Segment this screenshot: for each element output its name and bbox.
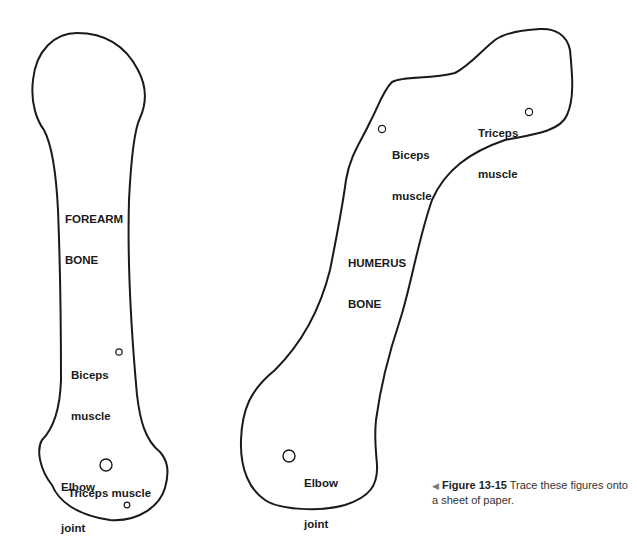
forearm-title-line1: FOREARM (65, 213, 123, 227)
humerus-triceps-line2: muscle (478, 168, 518, 182)
forearm-triceps-label: Triceps muscle (68, 487, 151, 501)
humerus-title-line1: HUMERUS (348, 257, 406, 271)
humerus-bone-outline (241, 29, 572, 509)
forearm-biceps-label: Biceps muscle (71, 342, 111, 437)
humerus-triceps-line1: Triceps (478, 127, 518, 141)
humerus-biceps-marker (378, 125, 385, 132)
figure-caption: ◀ Figure 13-15 Trace these figures onto … (432, 479, 632, 507)
forearm-triceps-marker (124, 502, 130, 508)
humerus-bone-title: HUMERUS BONE (348, 230, 406, 325)
humerus-triceps-marker (525, 108, 532, 115)
humerus-elbow-label: Elbow joint (304, 450, 338, 544)
forearm-biceps-line2: muscle (71, 410, 111, 424)
forearm-biceps-marker (116, 349, 122, 355)
humerus-biceps-line1: Biceps (392, 149, 432, 163)
humerus-title-line2: BONE (348, 298, 406, 312)
forearm-title-line2: BONE (65, 254, 123, 268)
humerus-elbow-joint-marker (283, 450, 295, 462)
humerus-biceps-line2: muscle (392, 190, 432, 204)
humerus-triceps-label: Triceps muscle (478, 100, 518, 195)
forearm-biceps-line1: Biceps (71, 369, 111, 383)
forearm-elbow-line2: joint (61, 522, 95, 536)
figure-number: Figure 13-15 (442, 479, 507, 491)
forearm-bone-title: FOREARM BONE (65, 186, 123, 281)
pointer-triangle-icon: ◀ (432, 481, 439, 491)
humerus-biceps-label: Biceps muscle (392, 122, 432, 217)
forearm-elbow-joint-marker (100, 459, 112, 471)
humerus-elbow-line2: joint (304, 518, 338, 532)
humerus-elbow-line1: Elbow (304, 477, 338, 491)
